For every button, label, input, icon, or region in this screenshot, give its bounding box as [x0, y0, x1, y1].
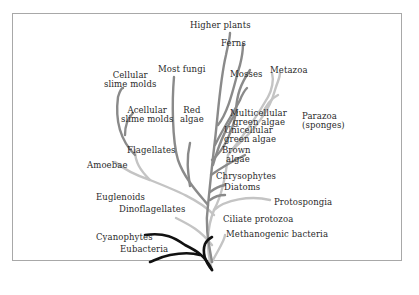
label-dinoflagellates: Dinoflagellates: [119, 205, 185, 214]
label-acellular-slime-molds: Acellular slime molds: [121, 106, 173, 124]
label-red-algae: Red algae: [180, 106, 204, 124]
label-chrysophytes: Chrysophytes: [216, 172, 276, 181]
label-ferns: Ferns: [221, 39, 246, 48]
label-cellular-slime-molds: Cellular slime molds: [104, 71, 156, 89]
label-brown-algae: Brown algae: [222, 146, 251, 164]
label-higher-plants: Higher plants: [190, 21, 251, 30]
phylogenetic-tree: [0, 0, 419, 295]
label-protospongia: Protospongia: [274, 198, 332, 207]
label-cyanophytes: Cyanophytes: [96, 233, 153, 242]
label-most-fungi: Most fungi: [158, 65, 206, 74]
label-flagellates: Flagellates: [127, 146, 176, 155]
label-eubacteria: Eubacteria: [120, 245, 168, 254]
label-methanogenic-bacteria: Methanogenic bacteria: [226, 230, 328, 239]
label-euglenoids: Euglenoids: [96, 193, 145, 202]
label-diatoms: Diatoms: [224, 183, 260, 192]
label-amoebae: Amoebae: [87, 161, 128, 170]
label-parazoa: Parazoa (sponges): [302, 112, 345, 130]
label-metazoa: Metazoa: [270, 66, 308, 75]
label-unicellular-green-algae: Unicellular green algae: [224, 126, 276, 144]
label-ciliate-protozoa: Ciliate protozoa: [223, 215, 293, 224]
label-mosses: Mosses: [230, 70, 263, 79]
